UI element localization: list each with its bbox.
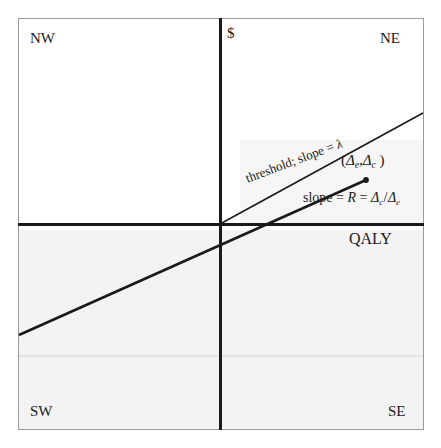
x-axis-label: QALY bbox=[349, 231, 392, 247]
point-delta-e: Δ bbox=[346, 152, 355, 168]
icer-num-delta: Δ bbox=[371, 190, 379, 205]
point-sub-e: e bbox=[355, 160, 359, 170]
incremental-point-label: (Δe,Δc ) bbox=[341, 153, 384, 168]
incremental-point-marker bbox=[363, 177, 369, 183]
icer-equals: = bbox=[356, 190, 371, 205]
icer-slope-word: slope = bbox=[303, 190, 347, 205]
icer-num-sub: c bbox=[379, 197, 383, 207]
icer-den-sub: e bbox=[396, 197, 400, 207]
point-sub-c: c bbox=[372, 160, 376, 170]
point-delta-c: Δ bbox=[363, 152, 372, 168]
quadrant-label-ne: NE bbox=[380, 31, 400, 46]
chart-lines-layer bbox=[0, 0, 441, 448]
y-axis-label: $ bbox=[227, 26, 235, 41]
icer-slope-annotation: slope = R = Δc/Δe bbox=[303, 191, 400, 205]
point-close-paren: ) bbox=[376, 152, 385, 168]
quadrant-label-sw: SW bbox=[30, 404, 53, 419]
quadrant-label-se: SE bbox=[388, 404, 406, 419]
icer-den-delta: Δ bbox=[388, 190, 396, 205]
quadrant-label-nw: NW bbox=[30, 31, 55, 46]
icer-r-symbol: R bbox=[347, 190, 356, 205]
cost-effectiveness-plane-figure: NW NE SW SE $ QALY threshold; slope = λ … bbox=[0, 0, 441, 448]
